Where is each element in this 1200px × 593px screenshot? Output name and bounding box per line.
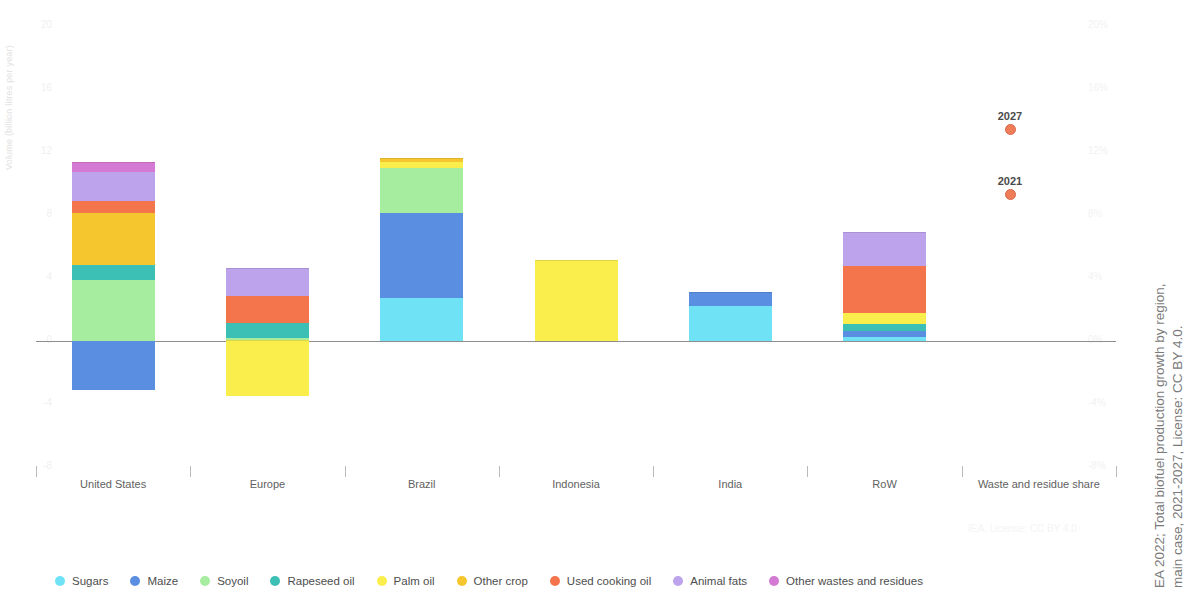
legend-swatch-icon	[377, 576, 387, 586]
marker-2027-dot	[1005, 124, 1016, 135]
x-category-label: Brazil	[345, 478, 499, 490]
marker-2027: 2027	[980, 110, 1040, 135]
marker-2027-label: 2027	[980, 110, 1040, 122]
legend-swatch-icon	[55, 576, 65, 586]
legend-label: Other crop	[474, 575, 528, 587]
legend-swatch-icon	[200, 576, 210, 586]
x-tick-mark	[190, 466, 191, 477]
legend-swatch-icon	[270, 576, 280, 586]
legend-label: Palm oil	[394, 575, 435, 587]
legend-swatch-icon	[769, 576, 779, 586]
marker-2021-label: 2021	[980, 175, 1040, 187]
x-category-label: India	[653, 478, 807, 490]
legend-swatch-icon	[457, 576, 467, 586]
x-tick-mark	[653, 466, 654, 477]
x-category-label: RoW	[807, 478, 961, 490]
legend-label: Used cooking oil	[567, 575, 651, 587]
x-category-label: Waste and residue share	[962, 478, 1116, 490]
legend-label: Rapeseed oil	[287, 575, 354, 587]
marker-2021-dot	[1005, 189, 1016, 200]
x-tick-mark	[807, 466, 808, 477]
legend-item[interactable]: Sugars	[55, 575, 108, 587]
x-tick-mark	[1116, 466, 1117, 477]
x-category-label: Europe	[190, 478, 344, 490]
legend-label: Soyoil	[217, 575, 248, 587]
side-caption-line-1: EA 2022; Total biofuel production growth…	[1152, 284, 1167, 588]
legend-item[interactable]: Soyoil	[200, 575, 248, 587]
marker-2021: 2021	[980, 175, 1040, 200]
legend-item[interactable]: Animal fats	[673, 575, 747, 587]
legend-swatch-icon	[130, 576, 140, 586]
legend-label: Other wastes and residues	[786, 575, 923, 587]
x-category-label: Indonesia	[499, 478, 653, 490]
legend-item[interactable]: Other wastes and residues	[769, 575, 923, 587]
watermark-license: IEA. License: CC BY 4.0	[968, 523, 1077, 534]
x-tick-mark	[962, 466, 963, 477]
chart-legend: SugarsMaizeSoyoilRapeseed oilPalm oilOth…	[55, 575, 945, 587]
legend-item[interactable]: Rapeseed oil	[270, 575, 354, 587]
legend-item[interactable]: Used cooking oil	[550, 575, 651, 587]
x-category-label: United States	[36, 478, 190, 490]
legend-label: Maize	[147, 575, 178, 587]
legend-item[interactable]: Palm oil	[377, 575, 435, 587]
x-tick-mark	[345, 466, 346, 477]
side-caption-line-2: main case, 2021-2027, License: CC BY 4.0…	[1170, 326, 1185, 588]
legend-item[interactable]: Other crop	[457, 575, 528, 587]
x-tick-mark	[499, 466, 500, 477]
legend-item[interactable]: Maize	[130, 575, 178, 587]
chart-canvas: Volume (billion litres per year) 2016128…	[0, 0, 1200, 593]
legend-swatch-icon	[550, 576, 560, 586]
legend-label: Animal fats	[690, 575, 747, 587]
x-axis: United StatesEuropeBrazilIndonesiaIndiaR…	[0, 0, 1200, 593]
legend-label: Sugars	[72, 575, 108, 587]
legend-swatch-icon	[673, 576, 683, 586]
x-tick-mark	[36, 466, 37, 477]
